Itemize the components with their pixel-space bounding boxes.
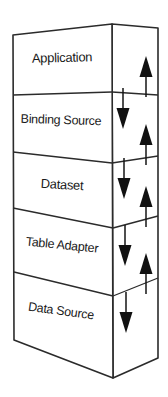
side-panel-face (112, 24, 158, 378)
front-face-body (13, 24, 113, 378)
layer-label-binding-source: Binding Source (4, 112, 118, 128)
front-panel-face (13, 24, 113, 378)
layer-label-application: Application (6, 50, 118, 66)
arrow-panel-body (112, 24, 158, 378)
layered-architecture-diagram: Application Binding Source Dataset Table… (0, 0, 168, 397)
